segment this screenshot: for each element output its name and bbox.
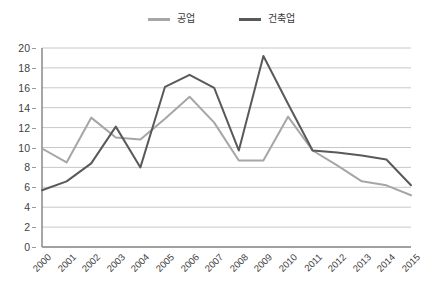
x-axis: 2000200120022003200420052006200720082009… (42, 250, 411, 296)
y-tick-label: 14 (18, 102, 30, 113)
y-tick-label: 20 (18, 43, 30, 54)
y-tick-mark (32, 227, 36, 228)
legend-item-geonchukeop[interactable]: 건축업 (239, 14, 295, 24)
y-tick-mark (32, 88, 36, 89)
series-line-gongeop (42, 97, 411, 196)
y-tick-label: 18 (18, 63, 30, 74)
y-tick-mark (32, 247, 36, 248)
y-tick-mark (32, 148, 36, 149)
y-tick-label: 0 (24, 242, 30, 253)
y-tick-label: 16 (18, 83, 30, 94)
y-tick-label: 12 (18, 122, 30, 133)
y-tick-label: 4 (24, 202, 30, 213)
plot-area (42, 48, 411, 247)
legend-label-gongeop: 공업 (177, 14, 195, 24)
y-axis: 02468101214161820 (0, 48, 36, 247)
y-tick-label: 6 (24, 182, 30, 193)
chart-legend: 공업 건축업 (0, 14, 442, 24)
legend-item-gongeop[interactable]: 공업 (148, 14, 195, 24)
y-tick-label: 8 (24, 162, 30, 173)
line-chart: 공업 건축업 02468101214161820 200020012002200… (0, 0, 442, 297)
y-tick-mark (32, 167, 36, 168)
plot-svg (42, 48, 411, 247)
legend-swatch-geonchukeop (239, 18, 261, 21)
y-tick-mark (32, 68, 36, 69)
y-tick-mark (32, 48, 36, 49)
y-tick-mark (32, 128, 36, 129)
y-tick-mark (32, 207, 36, 208)
legend-label-geonchukeop: 건축업 (268, 14, 295, 24)
y-tick-label: 10 (18, 142, 30, 153)
y-tick-mark (32, 108, 36, 109)
y-tick-mark (32, 187, 36, 188)
y-tick-label: 2 (24, 222, 30, 233)
legend-swatch-gongeop (148, 18, 170, 21)
